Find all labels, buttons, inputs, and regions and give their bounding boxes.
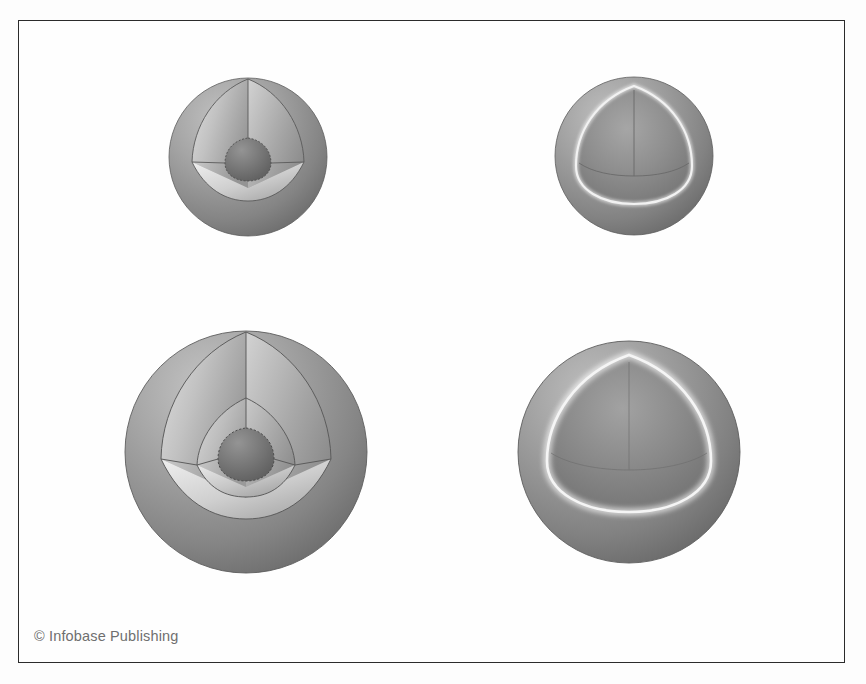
sphere-top-left <box>169 78 327 236</box>
copyright-credit: © Infobase Publishing <box>34 628 178 644</box>
sphere-bottom-right <box>518 341 740 563</box>
sphere-bottom-left <box>125 331 367 573</box>
figure-page: © Infobase Publishing <box>0 0 866 684</box>
sphere-diagram-canvas <box>0 0 866 684</box>
sphere-top-right <box>555 77 713 235</box>
